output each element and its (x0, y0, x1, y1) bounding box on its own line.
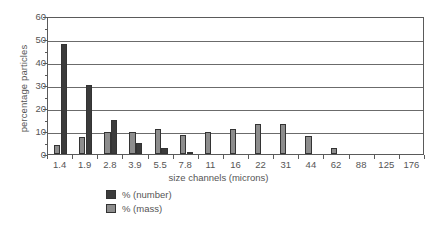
bar-mass (155, 129, 161, 154)
gridline (48, 64, 423, 65)
x-tick-mark (248, 155, 249, 159)
gridline (48, 110, 423, 111)
bar-number (61, 44, 67, 154)
bar-mass (331, 148, 337, 154)
bar-mass (79, 137, 85, 154)
x-tick-mark (273, 155, 274, 159)
x-tick-mark (349, 155, 350, 159)
gray-swatch-icon (106, 204, 116, 213)
bar-mass (230, 129, 236, 154)
plot-area (47, 17, 424, 155)
legend-item: % (number) (106, 188, 172, 201)
dark-swatch-icon (106, 190, 116, 199)
x-tick-mark (424, 155, 425, 159)
chart-legend: % (number)% (mass) (106, 188, 172, 216)
x-tick-mark (72, 155, 73, 159)
bar-mass (255, 124, 261, 154)
x-tick-label: 176 (396, 160, 426, 170)
bar-mass (280, 124, 286, 154)
x-tick-mark (97, 155, 98, 159)
bar-number (111, 120, 117, 155)
x-tick-mark (198, 155, 199, 159)
x-tick-mark (148, 155, 149, 159)
legend-item: % (mass) (106, 202, 172, 215)
y-tick-label: 10 (16, 127, 46, 137)
bar-number (86, 85, 92, 154)
x-tick-mark (223, 155, 224, 159)
x-tick-mark (374, 155, 375, 159)
x-tick-mark (298, 155, 299, 159)
y-tick-label: 30 (16, 81, 46, 91)
x-tick-mark (173, 155, 174, 159)
x-tick-mark (323, 155, 324, 159)
bar-mass (54, 145, 60, 154)
y-tick-label: 60 (16, 12, 46, 22)
legend-label: % (mass) (122, 203, 162, 214)
chart-figure: percentage particles 0102030405060 1.41.… (0, 0, 437, 230)
bar-number (187, 152, 193, 154)
bar-mass (205, 132, 211, 154)
gridline (48, 87, 423, 88)
legend-label: % (number) (122, 189, 172, 200)
y-tick-label: 0 (16, 150, 46, 160)
x-axis-title: size channels (microns) (0, 172, 437, 183)
x-tick-mark (122, 155, 123, 159)
bar-mass (305, 136, 311, 154)
bar-number (161, 148, 167, 154)
bar-mass (104, 132, 110, 154)
y-tick-label: 40 (16, 58, 46, 68)
bar-mass (180, 135, 186, 154)
y-tick-label: 50 (16, 35, 46, 45)
x-tick-mark (399, 155, 400, 159)
gridline (48, 41, 423, 42)
y-tick-label: 20 (16, 104, 46, 114)
bar-mass (129, 132, 135, 154)
bar-number (136, 143, 142, 155)
x-tick-mark (47, 155, 48, 159)
